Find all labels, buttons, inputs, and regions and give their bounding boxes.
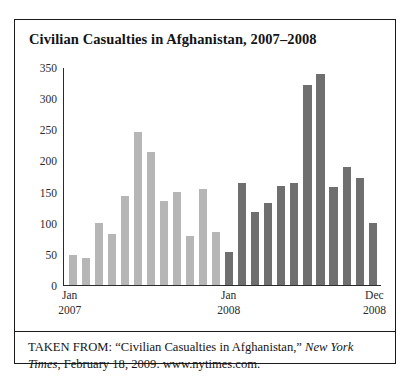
chart-title: Civilian Casualties in Afghanistan, 2007… bbox=[29, 31, 317, 48]
bar-slot bbox=[223, 68, 236, 285]
bar-slot bbox=[236, 68, 249, 285]
x-tick-month: Dec bbox=[363, 288, 386, 303]
bar-slot bbox=[171, 68, 184, 285]
source-caption: TAKEN FROM: “Civilian Casualties in Afgh… bbox=[28, 339, 383, 372]
bar-slot bbox=[340, 68, 353, 285]
bar-slot bbox=[353, 68, 366, 285]
bar-apr-2007 bbox=[108, 234, 116, 285]
caption-divider bbox=[15, 331, 395, 332]
bar-slot bbox=[119, 68, 132, 285]
x-tick-month: Jan bbox=[58, 288, 81, 303]
bar-aug-2008 bbox=[316, 74, 324, 284]
bar-nov-2008 bbox=[356, 178, 364, 284]
bar-jan-2007 bbox=[69, 255, 77, 285]
caption-prefix: TAKEN FROM: “Civilian Casualties in Afgh… bbox=[28, 340, 305, 354]
bar-feb-2007 bbox=[82, 258, 90, 285]
bar-series-group bbox=[64, 68, 381, 285]
bar-jan-2008 bbox=[225, 252, 233, 285]
bar-nov-2007 bbox=[199, 189, 207, 285]
bar-slot bbox=[105, 68, 118, 285]
x-axis-tick-labels: Jan2007Jan2008Dec2008 bbox=[63, 288, 381, 324]
bar-slot bbox=[366, 68, 379, 285]
y-axis-tick-200: 200 bbox=[40, 155, 63, 167]
bar-jun-2008 bbox=[290, 183, 298, 285]
x-axis-line bbox=[63, 285, 381, 286]
x-tick-year: 2007 bbox=[58, 303, 81, 318]
bar-slot bbox=[210, 68, 223, 285]
bar-jun-2007 bbox=[134, 132, 142, 285]
bar-may-2008 bbox=[277, 186, 285, 285]
bar-jul-2008 bbox=[303, 85, 311, 284]
bar-feb-2008 bbox=[238, 183, 246, 285]
x-tick-month: Jan bbox=[217, 288, 240, 303]
bar-slot bbox=[132, 68, 145, 285]
y-axis-tick-300: 300 bbox=[40, 93, 63, 105]
y-axis-tick-250: 250 bbox=[40, 124, 63, 136]
plot-area: 050100150200250300350 bbox=[63, 68, 381, 286]
bar-sep-2007 bbox=[173, 192, 181, 285]
bar-slot bbox=[301, 68, 314, 285]
x-axis-tick-jan-2007: Jan2007 bbox=[58, 288, 81, 317]
bar-slot bbox=[79, 68, 92, 285]
x-tick-year: 2008 bbox=[217, 303, 240, 318]
bar-mar-2007 bbox=[95, 223, 103, 285]
bar-slot bbox=[66, 68, 79, 285]
bar-oct-2008 bbox=[343, 167, 351, 285]
caption-suffix: , February 18, 2009. www.nytimes.com. bbox=[57, 357, 260, 371]
y-axis-tick-100: 100 bbox=[40, 218, 63, 230]
bar-slot bbox=[145, 68, 158, 285]
y-axis-tick-50: 50 bbox=[46, 249, 64, 261]
bar-slot bbox=[314, 68, 327, 285]
bar-slot bbox=[92, 68, 105, 285]
bar-aug-2007 bbox=[160, 201, 168, 285]
bar-oct-2007 bbox=[186, 236, 194, 284]
bar-slot bbox=[197, 68, 210, 285]
bar-slot bbox=[288, 68, 301, 285]
bar-slot bbox=[327, 68, 340, 285]
bar-slot bbox=[262, 68, 275, 285]
bar-slot bbox=[249, 68, 262, 285]
figure-frame: Civilian Casualties in Afghanistan, 2007… bbox=[14, 19, 396, 364]
bar-apr-2008 bbox=[264, 203, 272, 285]
bar-jul-2007 bbox=[147, 152, 155, 285]
bar-sep-2008 bbox=[329, 187, 337, 285]
bar-slot bbox=[184, 68, 197, 285]
x-tick-year: 2008 bbox=[363, 303, 386, 318]
bar-slot bbox=[275, 68, 288, 285]
bar-dec-2007 bbox=[212, 232, 220, 285]
bar-dec-2008 bbox=[369, 223, 377, 285]
y-axis-tick-350: 350 bbox=[40, 62, 63, 74]
bar-may-2007 bbox=[121, 196, 129, 285]
bar-mar-2008 bbox=[251, 212, 259, 285]
x-axis-tick-dec-2008: Dec2008 bbox=[363, 288, 386, 317]
x-axis-tick-jan-2008: Jan2008 bbox=[217, 288, 240, 317]
y-axis-tick-150: 150 bbox=[40, 187, 63, 199]
bar-slot bbox=[158, 68, 171, 285]
